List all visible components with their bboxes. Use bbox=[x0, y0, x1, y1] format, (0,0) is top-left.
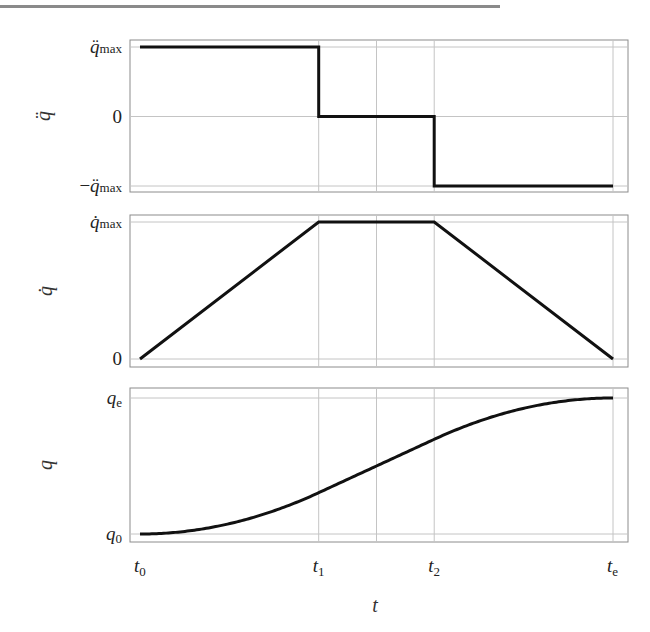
velocity-y-tick-label: 0 bbox=[113, 348, 123, 369]
position-y-axis-title: q bbox=[34, 460, 57, 470]
acceleration-y-tick-label: q̈max bbox=[90, 36, 122, 57]
trajectory-chart: q̈max0−q̈maxq̈q̇max0q̇qeq0qt0t1t2tet bbox=[0, 0, 650, 632]
x-tick-label-t2: t2 bbox=[428, 555, 440, 579]
position-y-tick-label: q0 bbox=[106, 523, 122, 546]
velocity-plot-frame bbox=[130, 215, 628, 367]
acceleration-y-tick-label: 0 bbox=[113, 106, 123, 127]
velocity-y-axis-title: q̇ bbox=[34, 286, 57, 296]
x-axis-title: t bbox=[372, 594, 378, 616]
x-tick-label-t1: t1 bbox=[313, 555, 325, 579]
acceleration-y-tick-label: −q̈max bbox=[79, 175, 122, 196]
x-tick-label-t0: t0 bbox=[134, 555, 146, 579]
x-tick-label-te: te bbox=[607, 555, 618, 579]
position-y-tick-label: qe bbox=[107, 387, 123, 410]
acceleration-y-axis-title: q̈ bbox=[32, 111, 55, 121]
velocity-y-tick-label: q̇max bbox=[90, 211, 122, 232]
